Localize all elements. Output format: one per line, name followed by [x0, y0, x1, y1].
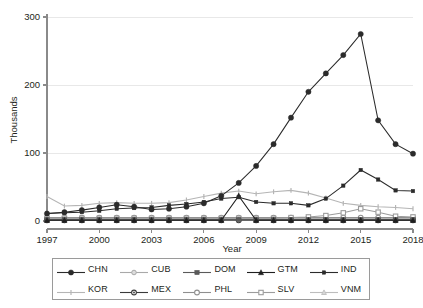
x-tick-label: 2003 — [141, 234, 162, 245]
y-tick-label: 100 — [24, 147, 40, 158]
legend-label: MEX — [151, 284, 171, 294]
legend-marker-dom-icon — [182, 264, 212, 275]
legend-label: VNM — [341, 284, 361, 294]
x-tick-label: 2006 — [193, 234, 214, 245]
legend-item-chn[interactable]: CHN — [53, 264, 116, 275]
y-axis: 0100200300 — [24, 11, 47, 226]
legend-label: CUB — [151, 264, 170, 274]
y-tick-label: 0 — [35, 215, 40, 226]
legend-item-ind[interactable]: IND — [306, 264, 369, 275]
legend-item-dom[interactable]: DOM — [179, 264, 242, 275]
legend-marker-slv-icon — [246, 284, 276, 295]
x-tick-label: 2009 — [246, 234, 267, 245]
legend-label: IND — [341, 264, 357, 274]
legend-marker-phl-icon — [182, 284, 212, 295]
series-chn — [44, 31, 415, 216]
legend-label: GTM — [278, 264, 298, 274]
legend-item-phl[interactable]: PHL — [179, 284, 242, 295]
y-tick-label: 200 — [24, 79, 40, 90]
legend-item-slv[interactable]: SLV — [243, 284, 306, 295]
legend-label: CHN — [88, 264, 108, 274]
x-tick-label: 2000 — [89, 234, 110, 245]
legend-label: KOR — [88, 284, 108, 294]
legend-item-kor[interactable]: KOR — [53, 284, 116, 295]
chart-legend: CHNCUBDOMGTMINDKORMEXPHLSLVVNM — [52, 258, 370, 300]
legend-item-vnm[interactable]: VNM — [306, 284, 369, 295]
y-tick-label: 300 — [24, 11, 40, 22]
legend-label: SLV — [278, 284, 295, 294]
x-axis-title: Year — [222, 243, 241, 254]
legend-marker-gtm-icon — [246, 264, 276, 275]
legend-item-cub[interactable]: CUB — [116, 264, 179, 275]
legend-marker-kor-icon — [56, 284, 86, 295]
x-tick-label: 2015 — [350, 234, 371, 245]
legend-item-mex[interactable]: MEX — [116, 284, 179, 295]
x-tick-label: 2012 — [298, 234, 319, 245]
x-tick-label: 1997 — [36, 234, 57, 245]
legend-item-gtm[interactable]: GTM — [243, 264, 306, 275]
legend-marker-chn-icon — [56, 264, 86, 275]
legend-marker-mex-icon — [119, 284, 149, 295]
legend-label: PHL — [214, 284, 232, 294]
legend-marker-cub-icon — [119, 264, 149, 275]
legend-label: DOM — [214, 264, 235, 274]
x-tick-label: 2018 — [402, 234, 423, 245]
series-layer — [44, 31, 415, 222]
line-chart: 0100200300 19972000200320062009201220152… — [0, 0, 423, 308]
legend-marker-ind-icon — [309, 264, 339, 275]
legend-marker-vnm-icon — [309, 284, 339, 295]
y-axis-title: Thousands — [8, 96, 19, 143]
